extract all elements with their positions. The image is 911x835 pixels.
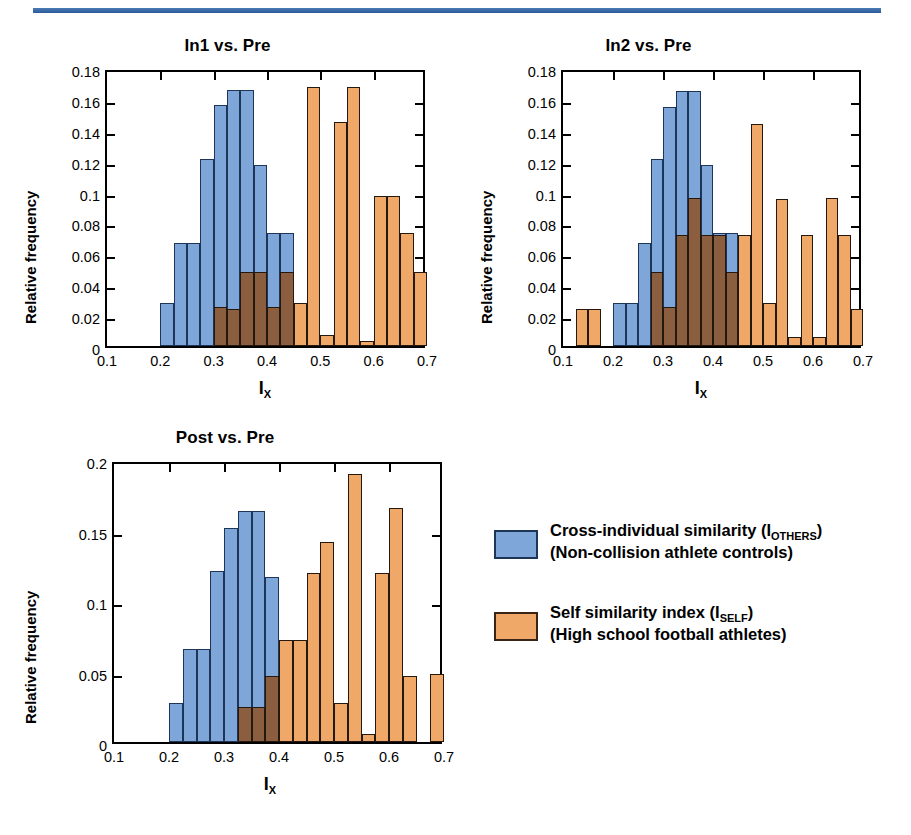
panel2-y-axis-label: Relative frequency [478, 191, 495, 324]
histogram-bar-overlap-11 [265, 676, 279, 742]
y-tick-right [851, 288, 860, 290]
x-tick-label: 0.2 [159, 749, 179, 765]
y-tick-label: 0.16 [72, 95, 100, 111]
legend-item-0-line2: (Non-collision athlete controls) [550, 542, 894, 564]
histogram-bar-blue-4 [160, 303, 173, 346]
y-tick-label: 0.06 [528, 249, 556, 265]
y-tick-label: 0.1 [536, 187, 556, 203]
y-tick-label: 0.2 [87, 456, 107, 472]
y-tick-right [851, 257, 860, 259]
x-tick-label: 0.5 [324, 749, 344, 765]
y-tick-right [415, 226, 424, 228]
y-tick-right [415, 257, 424, 259]
x-tick-label: 0.2 [150, 353, 170, 369]
histogram-bar-blue-4 [613, 303, 626, 346]
histogram-bar-orange-18 [347, 87, 360, 346]
y-tick-label: 0.12 [528, 156, 556, 172]
histogram-bar-blue-6 [638, 243, 651, 346]
y-tick [562, 319, 571, 321]
panel3-title: Post vs. Pre [0, 428, 460, 448]
y-tick-right [415, 196, 424, 198]
histogram-bar-blue-4 [169, 703, 183, 742]
histogram-bar-orange-16 [763, 303, 776, 346]
x-tick-top [613, 71, 615, 80]
histogram-bar-blue-6 [197, 649, 211, 742]
x-tick-top [334, 463, 336, 472]
histogram-bar-orange-17 [334, 122, 347, 346]
y-tick-label: 0.12 [72, 156, 100, 172]
y-tick [562, 288, 571, 290]
y-tick [562, 103, 571, 105]
histogram-bar-overlap-10 [688, 198, 701, 346]
y-tick-label: 0.14 [528, 125, 556, 141]
y-tick [106, 165, 115, 167]
histogram-bar-overlap-10 [240, 272, 253, 346]
histogram-bar-orange-22 [838, 235, 851, 346]
legend-item-self-similarity: Self similarity index (ISELF) (High scho… [494, 602, 894, 652]
histogram-bar-orange-14 [307, 573, 321, 742]
y-tick [106, 319, 115, 321]
y-tick-label: 0.15 [79, 526, 107, 542]
x-tick-top [224, 463, 226, 472]
panel3-plot-area: 00.050.10.150.20.10.20.30.40.50.60.7 [112, 462, 442, 744]
x-tick-top [320, 71, 322, 80]
x-tick-label: 0.3 [204, 353, 224, 369]
y-tick-label: 0.18 [528, 64, 556, 80]
histogram-bar-orange-16 [334, 703, 348, 742]
x-tick-label: 0.4 [269, 749, 289, 765]
x-tick-top [389, 463, 391, 472]
y-tick-label: 0.08 [72, 218, 100, 234]
x-tick-label: 0.4 [703, 353, 723, 369]
legend-item-1-line2: (High school football athletes) [550, 624, 894, 646]
y-tick [106, 103, 115, 105]
legend-swatch-blue-icon [494, 530, 538, 559]
y-tick-right [851, 226, 860, 228]
x-tick-label: 0.5 [753, 353, 773, 369]
histogram-bar-orange-14 [738, 235, 751, 346]
legend-item-cross-individual: Cross-individual similarity (IOTHERS) (N… [494, 520, 894, 570]
histogram-bar-orange-18 [788, 337, 801, 346]
x-tick-top [267, 71, 269, 80]
x-tick-top [279, 463, 281, 472]
x-tick-top [713, 71, 715, 80]
x-tick-label: 0.7 [853, 353, 873, 369]
y-tick-label: 0.1 [87, 597, 107, 613]
x-tick-label: 0.1 [553, 353, 573, 369]
x-tick-top [663, 71, 665, 80]
histogram-bar-blue-5 [174, 243, 187, 346]
y-tick-label: 0.02 [72, 311, 100, 327]
x-tick-label: 0.7 [417, 353, 437, 369]
histogram-bar-overlap-9 [227, 309, 240, 346]
histogram-bar-orange-22 [400, 233, 413, 346]
y-tick-label: 0.16 [528, 95, 556, 111]
header-rule [33, 8, 881, 13]
histogram-bar-blue-5 [626, 303, 639, 346]
panel1-title: In1 vs. Pre [0, 36, 455, 56]
histogram-bar-orange-20 [813, 337, 826, 346]
x-tick-label: 0.3 [214, 749, 234, 765]
y-tick-right [851, 196, 860, 198]
histogram-bar-orange-23 [430, 674, 444, 742]
histogram-bar-blue-9 [227, 90, 240, 346]
x-tick-top [160, 71, 162, 80]
panel1-bars [107, 72, 423, 346]
histogram-bar-orange-12 [279, 640, 293, 742]
histogram-bar-orange-18 [362, 734, 376, 742]
histogram-bar-orange-23 [851, 309, 864, 346]
y-tick-right [851, 134, 860, 136]
histogram-bar-overlap-8 [663, 307, 676, 346]
histogram-bar-blue-7 [200, 159, 213, 346]
histogram-bar-overlap-8 [214, 307, 227, 346]
panel-in2-vs-pre: In2 vs. Pre Relative frequency 00.020.04… [456, 36, 911, 416]
panel3-bars [114, 464, 440, 742]
histogram-bar-orange-14 [294, 303, 307, 346]
y-tick [106, 226, 115, 228]
y-tick-label: 0.18 [72, 64, 100, 80]
y-tick [106, 257, 115, 259]
histogram-bar-orange-19 [360, 341, 373, 346]
panel3-x-axis-label: IX [45, 774, 495, 795]
y-tick [106, 288, 115, 290]
histogram-bar-overlap-13 [280, 272, 293, 346]
histogram-bar-overlap-9 [676, 235, 689, 346]
histogram-bar-orange-16 [320, 335, 333, 346]
